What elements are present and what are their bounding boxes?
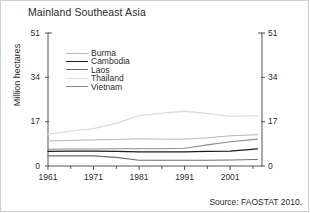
chart-figure: Mainland Southeast Asia Million hectares… [0,0,310,213]
chart-legend: BurmaCambodiaLaosThailandVietnam [66,49,130,91]
legend-label: Vietnam [91,83,122,91]
legend-swatch-icon [66,53,88,54]
legend-swatch-icon [66,86,88,87]
series-line-laos [48,156,257,160]
legend-item-vietnam: Vietnam [66,83,130,91]
series-line-thailand [48,111,257,134]
plot-area [0,0,310,213]
source-note: Source: FAOSTAT 2010. [209,197,302,207]
series-line-burma [48,135,257,141]
legend-swatch-icon [66,69,88,70]
legend-swatch-icon [66,61,88,62]
legend-swatch-icon [66,78,88,79]
